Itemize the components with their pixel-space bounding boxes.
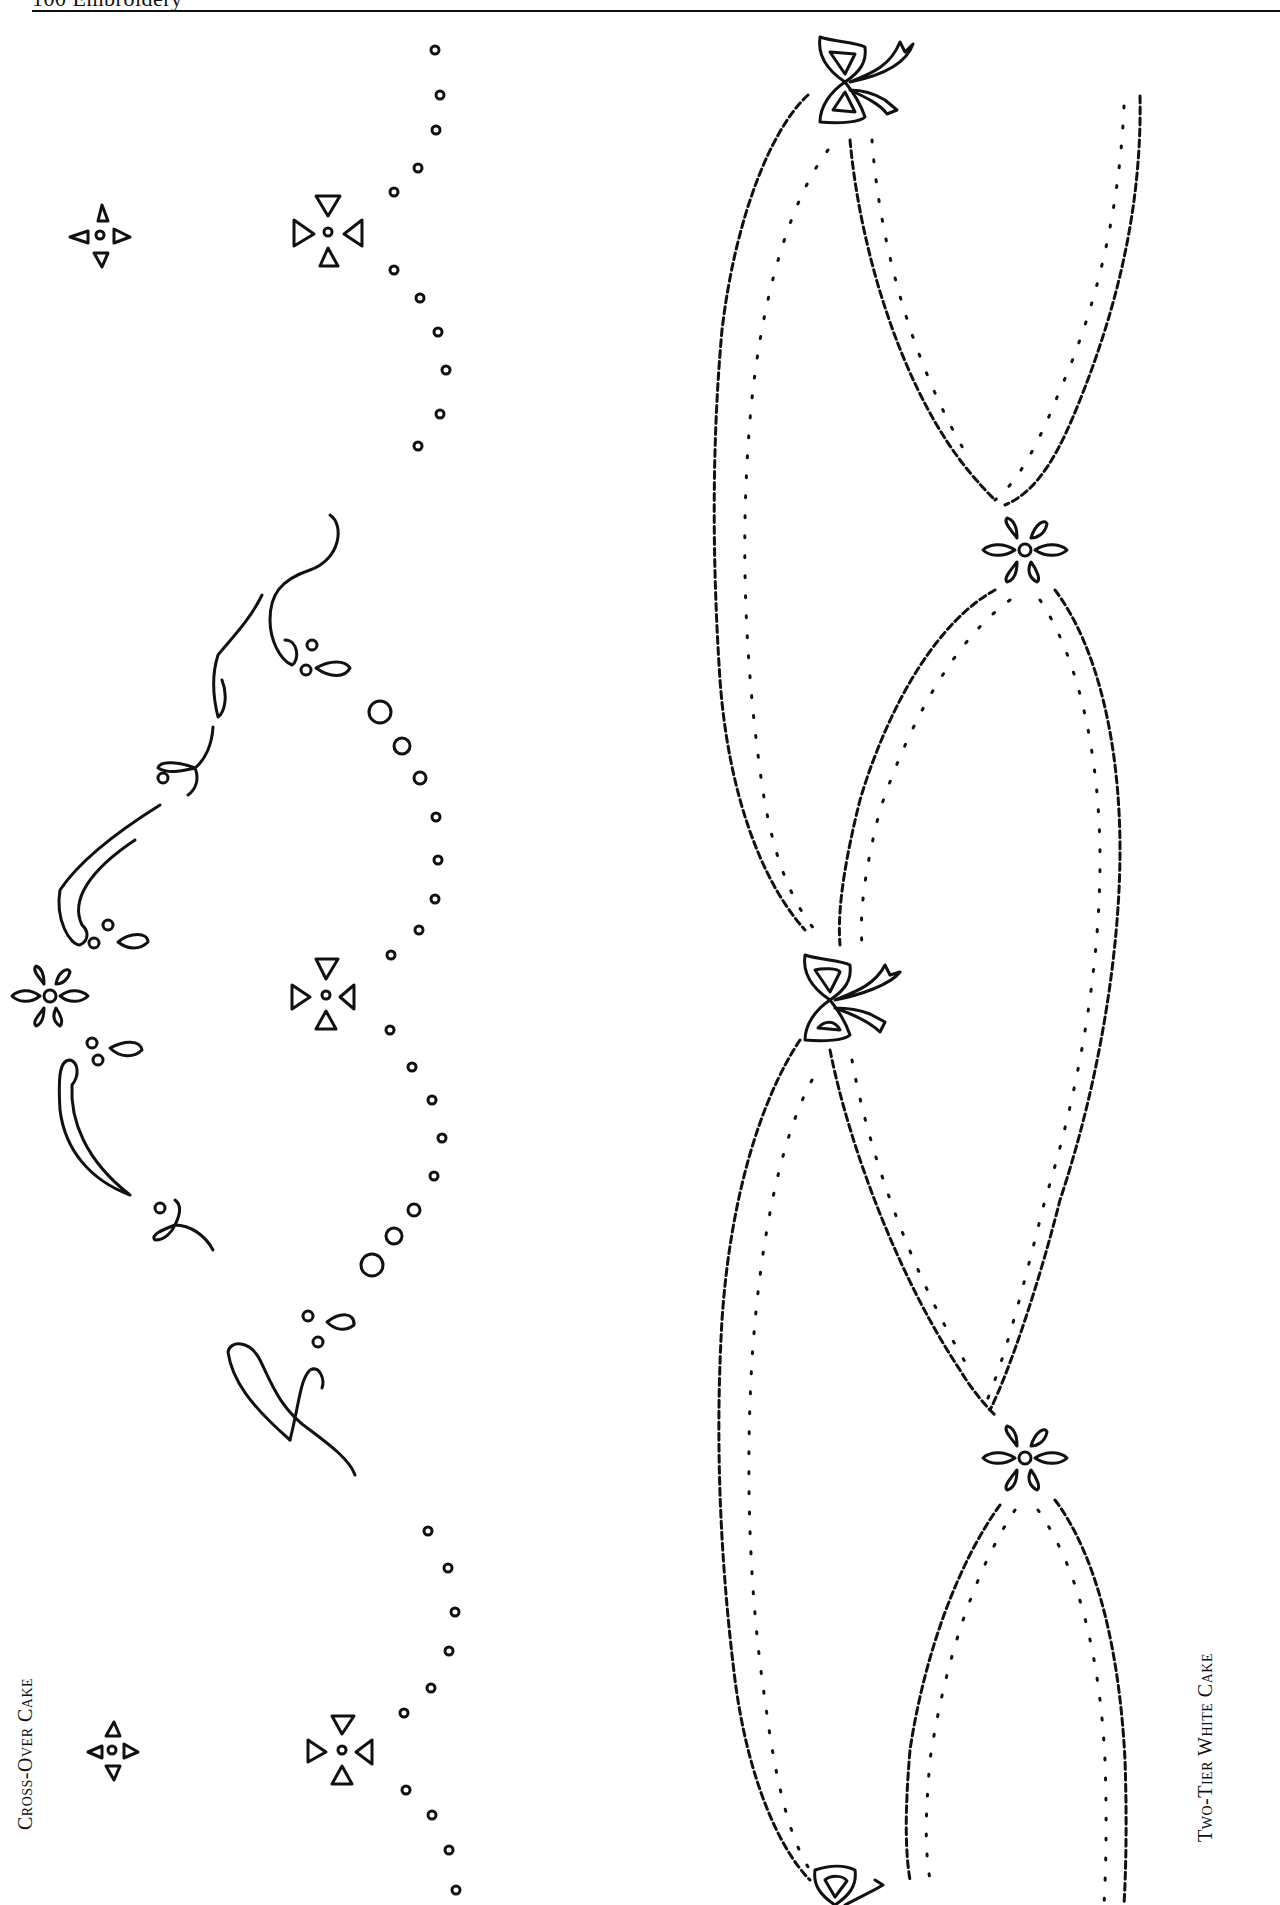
scalloped-garland-right xyxy=(830,96,1140,1905)
triangle-cross-motif xyxy=(308,1716,372,1784)
triangle-cross-motif xyxy=(292,959,354,1029)
teardrop-vine-swag-upper xyxy=(59,515,350,948)
dotted-scallop-bottom xyxy=(400,1527,460,1894)
dotted-scallop-top xyxy=(390,46,450,450)
six-petal-daisy xyxy=(12,966,88,1026)
ribbon-bow xyxy=(815,1866,883,1905)
teardrop-vine-swag-lower xyxy=(59,1038,355,1475)
dotted-scallop-middle xyxy=(361,701,446,1276)
triangle-cross-motif xyxy=(88,1722,138,1780)
triangle-cross-motif xyxy=(70,205,130,267)
embroidery-pattern-art xyxy=(0,0,1280,1905)
scalloped-garland-left xyxy=(714,95,828,1880)
six-petal-daisy xyxy=(983,1426,1067,1490)
ribbon-bow xyxy=(805,955,900,1041)
ribbon-bow xyxy=(820,37,913,123)
triangle-cross-motif xyxy=(294,196,362,266)
six-petal-daisy xyxy=(983,518,1067,582)
